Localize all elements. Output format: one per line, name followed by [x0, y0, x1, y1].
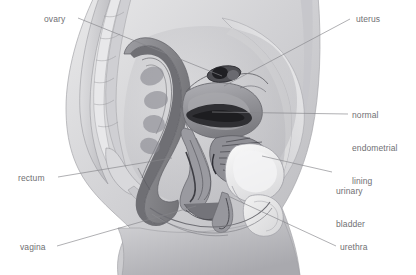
label-line-1: normal [352, 110, 398, 121]
label-vagina: vagina [20, 242, 46, 253]
label-rectum: rectum [18, 173, 45, 184]
label-line-2: endometrial [352, 143, 398, 154]
label-line-2: bladder [336, 219, 365, 230]
label-line-1: urinary [336, 186, 365, 197]
anatomy-figure: ovary uterus normal endometrial lining u… [0, 0, 416, 275]
label-urinary-bladder: urinary bladder [336, 164, 365, 252]
label-ovary: ovary [44, 14, 65, 25]
label-urethra: urethra [340, 242, 368, 253]
label-uterus: uterus [356, 14, 380, 25]
